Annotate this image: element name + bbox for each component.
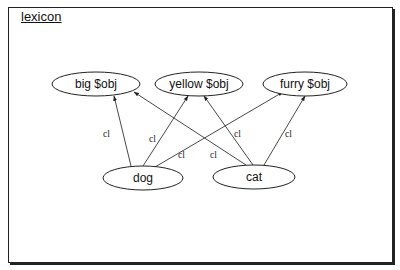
edge-label: cl [178, 150, 185, 160]
node-dog[interactable]: dog [103, 166, 183, 190]
lexicon-graph: clclclclclcl big $objyellow $objfurry $o… [0, 0, 400, 270]
edges-group: clclclclclcl [103, 92, 305, 167]
edge-label: cl [210, 150, 217, 160]
edge-label: cl [103, 129, 110, 139]
node-big[interactable]: big $obj [52, 72, 140, 96]
edge-dog-furry: cl [155, 92, 283, 167]
edge-dog-big: cl [103, 96, 131, 166]
edge-label: cl [285, 129, 292, 139]
node-label: dog [133, 171, 153, 185]
nodes-group: big $objyellow $objfurry $objdogcat [52, 72, 347, 190]
edge-arrow [114, 96, 131, 166]
edge-cat-furry: cl [264, 96, 305, 165]
node-label: big $obj [75, 77, 117, 91]
node-furry[interactable]: furry $obj [263, 72, 347, 96]
node-cat[interactable]: cat [213, 165, 295, 189]
node-label: cat [246, 170, 263, 184]
node-label: yellow $obj [169, 77, 228, 91]
edge-arrow [155, 92, 283, 167]
edge-label: cl [149, 134, 156, 144]
node-yellow[interactable]: yellow $obj [155, 72, 243, 96]
node-label: furry $obj [280, 77, 330, 91]
edge-label: cl [234, 129, 241, 139]
